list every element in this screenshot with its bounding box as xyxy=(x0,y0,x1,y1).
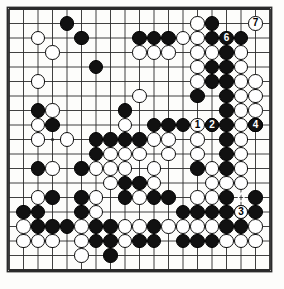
white-stone[interactable] xyxy=(103,147,117,161)
black-stone[interactable] xyxy=(118,190,132,204)
black-stone[interactable] xyxy=(219,132,233,146)
black-stone[interactable] xyxy=(31,219,45,233)
black-stone[interactable] xyxy=(219,219,233,233)
white-stone[interactable] xyxy=(147,161,161,175)
white-stone[interactable] xyxy=(132,89,146,103)
black-stone[interactable] xyxy=(190,205,204,219)
white-stone[interactable] xyxy=(74,248,88,262)
black-stone[interactable] xyxy=(161,190,175,204)
black-stone[interactable] xyxy=(31,103,45,117)
white-stone[interactable] xyxy=(205,190,219,204)
white-stone[interactable] xyxy=(234,103,248,117)
white-stone[interactable] xyxy=(132,45,146,59)
white-stone[interactable] xyxy=(132,190,146,204)
black-stone[interactable] xyxy=(31,161,45,175)
white-stone[interactable] xyxy=(234,132,248,146)
white-stone[interactable] xyxy=(190,74,204,88)
white-stone[interactable] xyxy=(74,234,88,248)
black-stone[interactable] xyxy=(60,16,74,30)
white-stone[interactable] xyxy=(147,132,161,146)
black-stone[interactable] xyxy=(190,161,204,175)
white-stone[interactable] xyxy=(176,219,190,233)
white-stone[interactable] xyxy=(103,161,117,175)
white-stone[interactable] xyxy=(74,219,88,233)
black-stone[interactable] xyxy=(219,147,233,161)
black-stone[interactable] xyxy=(45,219,59,233)
black-stone[interactable] xyxy=(219,161,233,175)
black-stone[interactable] xyxy=(118,132,132,146)
white-stone[interactable] xyxy=(190,219,204,233)
black-stone[interactable] xyxy=(103,132,117,146)
white-stone[interactable] xyxy=(219,176,233,190)
black-stone[interactable] xyxy=(190,234,204,248)
white-stone[interactable] xyxy=(205,45,219,59)
white-stone[interactable] xyxy=(45,45,59,59)
black-stone[interactable] xyxy=(89,132,103,146)
black-stone[interactable] xyxy=(205,74,219,88)
black-stone[interactable] xyxy=(219,89,233,103)
white-stone[interactable] xyxy=(161,45,175,59)
black-stone[interactable] xyxy=(60,219,74,233)
black-stone[interactable] xyxy=(89,219,103,233)
black-stone[interactable] xyxy=(219,205,233,219)
black-stone[interactable] xyxy=(205,16,219,30)
black-stone[interactable] xyxy=(219,190,233,204)
black-stone[interactable] xyxy=(103,234,117,248)
black-stone[interactable] xyxy=(103,219,117,233)
black-stone[interactable] xyxy=(219,45,233,59)
white-stone[interactable] xyxy=(234,74,248,88)
black-stone[interactable] xyxy=(74,161,88,175)
white-stone[interactable] xyxy=(205,161,219,175)
white-stone[interactable] xyxy=(219,234,233,248)
black-stone[interactable] xyxy=(219,60,233,74)
black-stone[interactable] xyxy=(147,219,161,233)
white-stone[interactable] xyxy=(60,132,74,146)
black-stone[interactable] xyxy=(103,248,117,262)
white-stone[interactable] xyxy=(45,103,59,117)
black-stone[interactable] xyxy=(132,234,146,248)
white-stone[interactable] xyxy=(234,45,248,59)
white-stone[interactable] xyxy=(161,147,175,161)
black-stone[interactable] xyxy=(147,190,161,204)
white-stone[interactable] xyxy=(31,74,45,88)
white-stone[interactable] xyxy=(190,147,204,161)
white-stone[interactable] xyxy=(103,176,117,190)
black-stone[interactable] xyxy=(74,205,88,219)
white-stone[interactable] xyxy=(45,234,59,248)
white-stone[interactable] xyxy=(89,190,103,204)
black-stone[interactable] xyxy=(161,31,175,45)
black-stone[interactable] xyxy=(219,118,233,132)
white-stone[interactable] xyxy=(248,219,262,233)
white-stone[interactable] xyxy=(248,234,262,248)
black-stone[interactable] xyxy=(74,190,88,204)
white-stone[interactable] xyxy=(190,132,204,146)
white-stone[interactable] xyxy=(205,219,219,233)
black-stone[interactable] xyxy=(132,176,146,190)
white-stone[interactable] xyxy=(248,89,262,103)
white-stone[interactable] xyxy=(31,132,45,146)
white-stone[interactable] xyxy=(234,161,248,175)
white-stone[interactable] xyxy=(118,219,132,233)
black-stone[interactable] xyxy=(219,74,233,88)
black-stone[interactable] xyxy=(132,132,146,146)
white-stone[interactable] xyxy=(248,74,262,88)
black-stone[interactable] xyxy=(219,103,233,117)
white-stone[interactable] xyxy=(118,161,132,175)
white-stone[interactable] xyxy=(248,103,262,117)
white-stone[interactable] xyxy=(89,161,103,175)
white-stone[interactable] xyxy=(45,161,59,175)
white-stone[interactable] xyxy=(147,45,161,59)
black-stone[interactable] xyxy=(248,205,262,219)
white-stone[interactable] xyxy=(132,219,146,233)
black-stone[interactable] xyxy=(161,118,175,132)
white-stone[interactable] xyxy=(16,234,30,248)
white-stone[interactable] xyxy=(161,219,175,233)
white-stone[interactable] xyxy=(16,219,30,233)
white-stone[interactable] xyxy=(190,190,204,204)
white-stone[interactable] xyxy=(190,16,204,30)
black-stone[interactable] xyxy=(118,103,132,117)
white-stone[interactable] xyxy=(190,45,204,59)
black-stone[interactable] xyxy=(45,190,59,204)
black-stone[interactable] xyxy=(132,31,146,45)
black-stone[interactable] xyxy=(16,205,30,219)
